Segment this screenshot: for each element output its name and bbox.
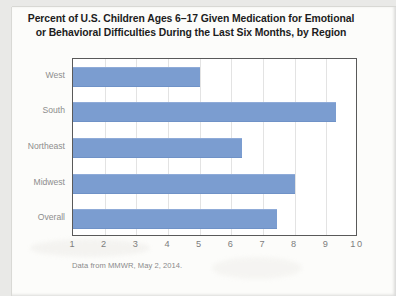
bar-overall: [73, 209, 277, 229]
chart-title-line-1: Percent of U.S. Children Ages 6–17 Given…: [14, 12, 368, 26]
bar-midwest: [73, 174, 295, 194]
x-tick-10: 10: [342, 239, 372, 249]
x-tick-4: 4: [152, 239, 182, 249]
bar-west: [73, 67, 200, 87]
category-label-west: West: [0, 70, 65, 80]
chart-title: Percent of U.S. Children Ages 6–17 Given…: [14, 12, 368, 40]
x-tick-5: 5: [184, 239, 214, 249]
x-tick-9: 9: [310, 239, 340, 249]
bar-northeast: [73, 138, 242, 158]
x-tick-6: 6: [215, 239, 245, 249]
bar-south: [73, 102, 336, 122]
gridline: [295, 59, 296, 235]
x-tick-3: 3: [120, 239, 150, 249]
category-label-midwest: Midwest: [0, 177, 65, 187]
category-label-overall: Overall: [0, 212, 65, 222]
chart-title-line-2: or Behavioral Difficulties During the La…: [14, 26, 368, 40]
category-label-south: South: [0, 105, 65, 115]
source-note: Data from MMWR, May 2, 2014.: [72, 261, 182, 270]
gridline: [326, 59, 327, 235]
plot-area: [72, 58, 357, 236]
scan-blotch: [212, 257, 302, 279]
category-label-northeast: Northeast: [0, 141, 65, 151]
x-tick-7: 7: [247, 239, 277, 249]
x-tick-8: 8: [279, 239, 309, 249]
x-tick-2: 2: [89, 239, 119, 249]
x-tick-1: 1: [57, 239, 87, 249]
